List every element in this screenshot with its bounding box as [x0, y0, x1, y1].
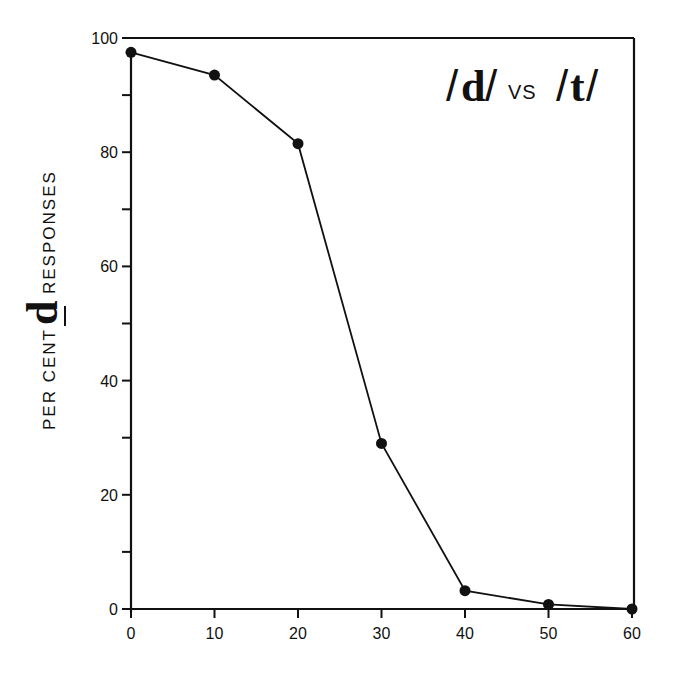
x-tick-label: 50	[540, 625, 558, 642]
x-axis-ticks: 0102030405060	[127, 609, 641, 642]
y-label-prefix: PER CENT	[40, 328, 59, 430]
y-axis-ticks: 020406080100	[91, 30, 131, 618]
data-point-marker	[209, 70, 220, 81]
line-chart: 020406080100 0102030405060 / d / VS / t …	[0, 0, 675, 688]
title-slash: /	[586, 61, 599, 110]
plot-frame	[124, 38, 634, 612]
title-phoneme-d: d	[461, 62, 485, 111]
data-point-marker	[627, 604, 638, 615]
data-series	[126, 47, 638, 615]
y-tick-label: 0	[109, 601, 118, 618]
y-tick-label: 20	[100, 487, 118, 504]
x-tick-label: 20	[289, 625, 307, 642]
data-point-marker	[543, 599, 554, 610]
data-point-marker	[376, 438, 387, 449]
x-tick-label: 0	[127, 625, 136, 642]
y-label-symbol: d	[18, 301, 67, 325]
title-slash: /	[485, 61, 498, 110]
y-axis-label: PER CENT d RESPONSES	[18, 170, 67, 430]
title-vs: VS	[508, 81, 537, 103]
data-point-marker	[126, 47, 137, 58]
y-tick-label: 60	[100, 258, 118, 275]
y-label-suffix: RESPONSES	[40, 170, 59, 294]
title-phoneme-t: t	[570, 62, 585, 111]
data-point-marker	[460, 585, 471, 596]
series-line	[131, 52, 632, 609]
x-tick-label: 40	[456, 625, 474, 642]
x-tick-label: 10	[206, 625, 224, 642]
y-tick-label: 80	[100, 144, 118, 161]
x-tick-label: 60	[623, 625, 641, 642]
chart-title: / d / VS / t /	[446, 61, 599, 111]
title-slash: /	[556, 61, 569, 110]
y-tick-label: 40	[100, 373, 118, 390]
data-point-marker	[293, 138, 304, 149]
title-slash: /	[446, 61, 459, 110]
x-tick-label: 30	[373, 625, 391, 642]
y-tick-label: 100	[91, 30, 118, 47]
